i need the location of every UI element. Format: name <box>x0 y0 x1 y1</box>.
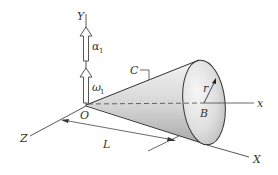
cone-diagram: Y α 1 ω 1 O Z L C r B x X <box>0 0 278 175</box>
label-Y: Y <box>77 10 86 23</box>
L-arrow-end <box>167 137 176 141</box>
label-r: r <box>203 82 209 95</box>
label-alpha-sub: 1 <box>99 47 103 55</box>
z-axis <box>30 106 86 136</box>
label-O: O <box>80 109 89 122</box>
L-arrow-start <box>61 119 69 123</box>
label-B: B <box>199 107 208 120</box>
C-leader <box>140 70 149 80</box>
angular-acceleration-arrow <box>80 27 92 61</box>
label-X: X <box>252 153 262 166</box>
X-axis <box>207 145 249 157</box>
label-x: x <box>257 97 264 110</box>
label-omega-sub: 1 <box>100 88 104 96</box>
label-L: L <box>102 138 110 151</box>
label-Z: Z <box>19 132 28 145</box>
angular-velocity-arrow <box>80 68 92 103</box>
label-C: C <box>130 64 139 77</box>
